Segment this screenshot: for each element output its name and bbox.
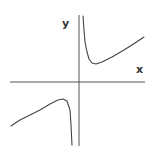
curve-right-branch (83, 16, 144, 64)
function-graph (0, 0, 152, 154)
y-axis-label: y (62, 18, 69, 29)
x-axis-label: x (136, 64, 143, 75)
curve-left-branch (11, 99, 72, 145)
